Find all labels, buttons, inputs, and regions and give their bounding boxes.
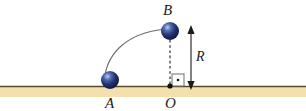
ball-at-a — [101, 71, 119, 89]
r-arrow-head-up — [187, 25, 194, 34]
ball-at-b — [161, 22, 179, 40]
point-b-label: B — [163, 3, 172, 18]
point-a-label: A — [105, 96, 114, 111]
physics-diagram-figure: B A O R Ilustrações/Arquivo da editora — [0, 0, 306, 111]
diagram-canvas — [0, 0, 306, 111]
image-credit-text: Ilustrações/Arquivo da editora — [301, 0, 306, 4]
ground-band — [0, 87, 306, 97]
right-angle-marker-dot — [177, 79, 180, 82]
point-o-dot — [167, 83, 172, 88]
distance-r-label: R — [196, 50, 205, 64]
point-o-label: O — [165, 96, 176, 111]
